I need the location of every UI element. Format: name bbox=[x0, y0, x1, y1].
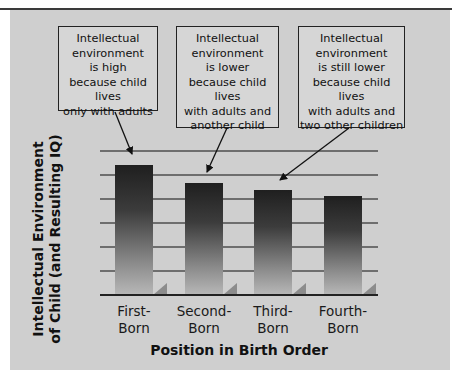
arrow-icon bbox=[280, 128, 349, 180]
annotation-line: environment bbox=[59, 47, 157, 62]
x-tick-fourth-born: Fourth- Born bbox=[308, 303, 378, 337]
annotation-line: because child lives bbox=[59, 76, 157, 105]
y-axis-title-line: Intellectual Environment bbox=[30, 134, 47, 344]
annotation-line: because child lives bbox=[299, 76, 404, 105]
annotation-line: environment bbox=[177, 47, 278, 62]
annotation-first-born: Intellectual environment is high because… bbox=[58, 26, 158, 111]
annotation-third-born: Intellectual environment is still lower … bbox=[298, 26, 405, 128]
y-axis-title-line: of Child (and Resulting IQ) bbox=[47, 134, 64, 344]
y-axis-title: Intellectual Environment of Child (and R… bbox=[30, 134, 64, 344]
x-tick-third-born: Third- Born bbox=[238, 303, 308, 337]
x-tick-first-born: First- Born bbox=[99, 303, 169, 337]
x-tick-line: First- bbox=[99, 303, 169, 320]
x-axis-title: Position in Birth Order bbox=[100, 342, 378, 358]
x-tick-second-born: Second- Born bbox=[169, 303, 239, 337]
annotation-line: two other children bbox=[299, 119, 404, 134]
annotation-line: with adults and bbox=[177, 105, 278, 120]
annotation-line: Intellectual bbox=[59, 32, 157, 47]
x-tick-line: Born bbox=[169, 320, 239, 337]
x-tick-line: Second- bbox=[169, 303, 239, 320]
x-tick-line: Born bbox=[99, 320, 169, 337]
annotation-line: only with adults bbox=[59, 105, 157, 120]
annotation-line: Intellectual bbox=[299, 32, 404, 47]
x-tick-line: Born bbox=[238, 320, 308, 337]
annotation-line: is high bbox=[59, 61, 157, 76]
annotation-second-born: Intellectual environment is lower becaus… bbox=[176, 26, 279, 128]
arrow-icon bbox=[207, 128, 227, 172]
annotation-line: environment bbox=[299, 47, 404, 62]
annotation-line: because child lives bbox=[177, 76, 278, 105]
x-tick-line: Third- bbox=[238, 303, 308, 320]
annotation-line: Intellectual bbox=[177, 32, 278, 47]
x-tick-line: Fourth- bbox=[308, 303, 378, 320]
x-tick-line: Born bbox=[308, 320, 378, 337]
annotation-line: is still lower bbox=[299, 61, 404, 76]
annotation-line: with adults and bbox=[299, 105, 404, 120]
annotation-line: another child bbox=[177, 119, 278, 134]
annotation-line: is lower bbox=[177, 61, 278, 76]
